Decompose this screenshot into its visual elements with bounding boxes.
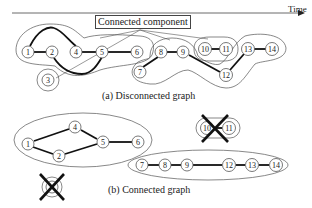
node-7: 7 xyxy=(134,66,146,78)
caption-disconnected: (a) Disconnected graph xyxy=(102,90,195,101)
svg-text:2: 2 xyxy=(50,48,54,57)
svg-text:5: 5 xyxy=(100,48,104,57)
bottom-edges xyxy=(33,128,269,165)
svg-text:8: 8 xyxy=(159,48,163,57)
node-11: 11 xyxy=(223,122,236,135)
svg-text:9: 9 xyxy=(181,48,185,57)
node-1: 1 xyxy=(22,46,34,58)
svg-text:12: 12 xyxy=(225,161,233,170)
svg-text:6: 6 xyxy=(136,138,140,147)
node-10: 10 xyxy=(199,43,212,56)
node-5: 5 xyxy=(97,136,109,148)
svg-text:7: 7 xyxy=(140,161,144,170)
node-11: 11 xyxy=(220,43,233,56)
svg-text:12: 12 xyxy=(222,71,230,80)
node-4: 4 xyxy=(69,121,81,133)
graph-diagram: 1 2 3 4 5 6 7 8 9 10 11 12 13 14 1 2 xyxy=(0,0,312,208)
svg-text:3: 3 xyxy=(46,76,50,85)
cross-icon-node-3 xyxy=(40,174,64,200)
svg-text:6: 6 xyxy=(135,48,139,57)
node-12: 12 xyxy=(220,69,233,82)
top-nodes: 1 2 3 4 5 6 7 8 9 10 11 12 13 14 xyxy=(22,43,279,87)
node-2: 2 xyxy=(53,150,65,162)
node-14: 14 xyxy=(266,43,279,56)
node-12: 12 xyxy=(223,159,236,172)
svg-text:9: 9 xyxy=(185,161,189,170)
svg-text:13: 13 xyxy=(248,161,256,170)
time-axis-label: Time xyxy=(288,4,307,14)
connected-component-label: Connected component xyxy=(95,15,191,29)
svg-text:5: 5 xyxy=(101,138,105,147)
svg-text:13: 13 xyxy=(244,45,252,54)
node-13: 13 xyxy=(242,43,255,56)
node-7: 7 xyxy=(136,159,148,171)
node-13: 13 xyxy=(246,159,259,172)
svg-text:7: 7 xyxy=(138,68,142,77)
node-9: 9 xyxy=(177,46,189,58)
svg-text:8: 8 xyxy=(163,161,167,170)
node-14: 14 xyxy=(270,159,283,172)
node-1: 1 xyxy=(22,138,34,150)
svg-text:14: 14 xyxy=(272,161,280,170)
svg-text:10: 10 xyxy=(201,45,209,54)
svg-text:2: 2 xyxy=(57,152,61,161)
node-8: 8 xyxy=(155,46,167,58)
node-6: 6 xyxy=(132,136,144,148)
node-5: 5 xyxy=(96,46,108,58)
node-9: 9 xyxy=(181,159,193,171)
svg-text:11: 11 xyxy=(225,124,233,133)
svg-text:11: 11 xyxy=(222,45,230,54)
node-2: 2 xyxy=(46,46,58,58)
svg-text:1: 1 xyxy=(26,140,30,149)
node-8: 8 xyxy=(159,159,171,171)
node-4: 4 xyxy=(70,46,82,58)
node-6: 6 xyxy=(131,46,143,58)
svg-text:14: 14 xyxy=(268,45,276,54)
node-3: 3 xyxy=(42,74,54,86)
svg-text:1: 1 xyxy=(26,48,30,57)
svg-text:4: 4 xyxy=(73,123,77,132)
caption-connected: (b) Connected graph xyxy=(108,184,190,195)
svg-text:4: 4 xyxy=(74,48,78,57)
